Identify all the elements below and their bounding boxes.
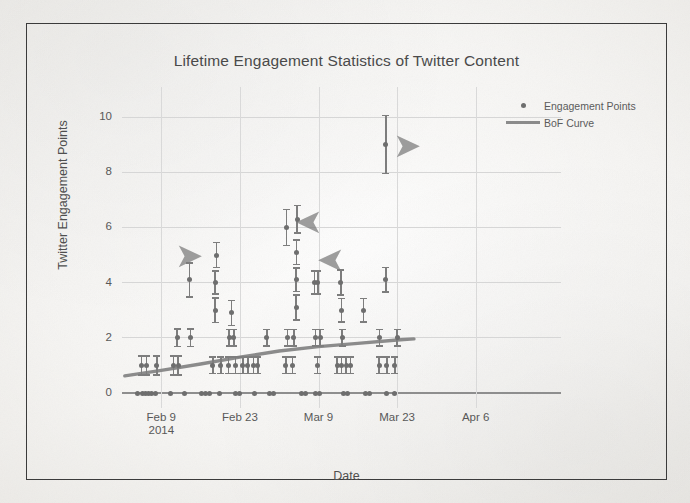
data-point[interactable] — [237, 391, 242, 396]
error-bar-cap — [391, 373, 398, 375]
error-bar-cap — [212, 270, 219, 272]
error-bar-cap — [383, 373, 390, 375]
error-bar-cap — [290, 329, 297, 331]
error-bar-cap — [293, 319, 300, 321]
data-point[interactable] — [217, 391, 222, 396]
error-bar-cap — [383, 356, 390, 358]
error-bar-cap — [339, 345, 346, 347]
error-bar-cap — [213, 242, 220, 244]
error-bar-cap — [289, 373, 296, 375]
data-point[interactable] — [252, 391, 257, 396]
error-bar-cap — [293, 291, 300, 293]
legend-item-bof-curve[interactable]: BoF Curve — [502, 114, 654, 131]
error-bar-cap — [283, 245, 290, 247]
arrow-right-icon: ➤ — [175, 238, 203, 272]
error-bar-cap — [394, 345, 401, 347]
error-bar-cap — [394, 329, 401, 331]
error-bar-cap — [382, 115, 389, 117]
chart-frame: Lifetime Engagement Statistics of Twitte… — [26, 23, 667, 480]
data-point[interactable] — [233, 363, 238, 368]
data-point[interactable] — [318, 335, 323, 340]
legend-item-engagement-points[interactable]: Engagement Points — [502, 97, 654, 114]
arrow-left-icon: ➤ — [295, 204, 323, 238]
arrow-right-icon: ➤ — [393, 128, 421, 162]
error-bar-cap — [391, 356, 398, 358]
error-bar-cap — [228, 300, 235, 302]
data-point[interactable] — [214, 253, 219, 258]
data-point[interactable] — [207, 391, 212, 396]
error-bar-cap — [317, 329, 324, 331]
error-bar-cap — [175, 374, 182, 376]
error-bar-cap — [382, 173, 389, 175]
dot-marker-icon — [502, 103, 544, 108]
chart-legend: Engagement Points BoF Curve — [502, 97, 654, 131]
arrow-left-icon: ➤ — [317, 242, 345, 276]
data-point[interactable] — [339, 308, 344, 313]
error-bar-cap — [376, 373, 383, 375]
error-bar-cap — [174, 328, 181, 330]
error-bar-cap — [153, 355, 160, 357]
data-point[interactable] — [315, 363, 320, 368]
error-bar-cap — [232, 356, 239, 358]
error-bar-cap — [217, 373, 224, 375]
data-point[interactable] — [168, 391, 173, 396]
data-point[interactable] — [175, 335, 180, 340]
error-bar-cap — [186, 296, 193, 298]
error-bar-cap — [209, 356, 216, 358]
data-point[interactable] — [294, 250, 299, 255]
error-bar-cap — [230, 345, 237, 347]
error-bar-cap — [293, 264, 300, 266]
data-point[interactable] — [182, 391, 187, 396]
error-bar-cap — [254, 356, 261, 358]
data-point[interactable] — [294, 277, 299, 282]
error-bar-cap — [228, 325, 235, 327]
error-bar-cap — [263, 329, 270, 331]
error-bar-cap — [283, 209, 290, 211]
error-bar-cap — [230, 329, 237, 331]
data-point[interactable] — [392, 391, 397, 396]
legend-label: Engagement Points — [544, 100, 636, 112]
bof-curve-line — [27, 24, 668, 481]
error-bar-cap — [360, 321, 367, 323]
error-bar-cap — [263, 345, 270, 347]
error-bar-cap — [314, 356, 321, 358]
error-bar-cap — [382, 291, 389, 293]
error-bar-cap — [232, 373, 239, 375]
error-bar-cap — [187, 346, 194, 348]
error-bar-cap — [337, 294, 344, 296]
error-bar-cap — [209, 373, 216, 375]
data-point[interactable] — [303, 391, 308, 396]
data-point[interactable] — [361, 308, 366, 313]
error-bar-cap — [212, 293, 219, 295]
data-point[interactable] — [377, 363, 382, 368]
data-point[interactable] — [348, 363, 353, 368]
data-point[interactable] — [367, 391, 372, 396]
error-bar-cap — [338, 321, 345, 323]
data-point[interactable] — [345, 391, 350, 396]
error-bar-cap — [293, 294, 300, 296]
data-point[interactable] — [340, 335, 345, 340]
error-bar-cap — [143, 374, 150, 376]
data-point[interactable] — [176, 363, 181, 368]
data-point[interactable] — [395, 335, 400, 340]
error-bar-cap — [254, 373, 261, 375]
data-point[interactable] — [271, 391, 276, 396]
error-bar-cap — [338, 298, 345, 300]
error-bar-cap — [217, 356, 224, 358]
error-bar-cap — [289, 356, 296, 358]
data-point[interactable] — [317, 391, 322, 396]
error-bar-cap — [382, 267, 389, 269]
data-point[interactable] — [294, 305, 299, 310]
data-point[interactable] — [153, 391, 158, 396]
line-marker-icon — [502, 121, 544, 124]
data-point[interactable] — [213, 280, 218, 285]
error-bar-cap — [339, 329, 346, 331]
error-bar-cap — [314, 293, 321, 295]
error-bar-cap — [212, 297, 219, 299]
data-point[interactable] — [213, 308, 218, 313]
error-bar-cap — [317, 345, 324, 347]
error-bar-cap — [360, 298, 367, 300]
data-point[interactable] — [284, 225, 289, 230]
error-bar-cap — [376, 329, 383, 331]
error-bar-cap — [174, 346, 181, 348]
